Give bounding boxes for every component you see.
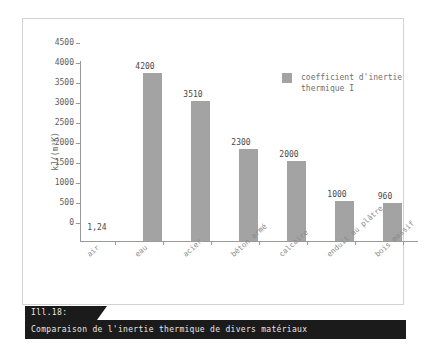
- caption-tab-notch: [97, 306, 107, 320]
- y-tick-label: 3500: [23, 78, 80, 88]
- bar-value-enduit-au-platre: 1000: [319, 190, 355, 199]
- figure-caption: Ill.18: Comparaison de l'inertie thermiq…: [25, 306, 406, 339]
- x-tick-mark: [163, 241, 164, 245]
- legend-swatch-icon: [282, 73, 292, 83]
- y-tick-mark: [76, 43, 80, 44]
- figure-container: 4500 4000 3500 3000 2500 2000 1500 1000 …: [0, 0, 425, 356]
- bar-value-eau: 4200: [127, 62, 163, 71]
- bar-value-calcaire: 2000: [271, 150, 307, 159]
- bar-value-beton-arme: 2300: [223, 138, 259, 147]
- chart-frame: 4500 4000 3500 3000 2500 2000 1500 1000 …: [22, 18, 404, 305]
- x-label-eau: eau: [133, 243, 149, 259]
- y-axis-title: kJ/(m³K): [51, 112, 60, 192]
- y-tick-label: 0: [23, 218, 80, 228]
- legend-label: coefficient d'inertie thermique I: [301, 72, 402, 94]
- bar-acier[interactable]: [191, 101, 210, 241]
- x-tick-mark: [355, 241, 356, 245]
- y-tick-label: 4000: [23, 58, 80, 68]
- bar-value-air: 1,24: [79, 223, 115, 232]
- y-tick-label: 3000: [23, 98, 80, 108]
- bar-value-acier: 3510: [175, 90, 211, 99]
- caption-title: Comparaison de l'inertie thermique de di…: [31, 324, 307, 335]
- bar-eau[interactable]: [143, 73, 162, 241]
- y-tick-label: 4500: [23, 38, 80, 48]
- y-tick-label: 500: [23, 198, 80, 208]
- x-label-air: air: [85, 243, 101, 259]
- x-tick-mark: [115, 241, 116, 245]
- x-tick-mark: [259, 241, 260, 245]
- bar-value-bois-massif: 960: [367, 192, 403, 201]
- chart-legend: coefficient d'inertie thermique I: [282, 72, 402, 94]
- x-tick-mark: [403, 241, 404, 245]
- x-tick-mark: [211, 241, 212, 245]
- caption-number: Ill.18:: [31, 308, 68, 318]
- x-tick-mark: [307, 241, 308, 245]
